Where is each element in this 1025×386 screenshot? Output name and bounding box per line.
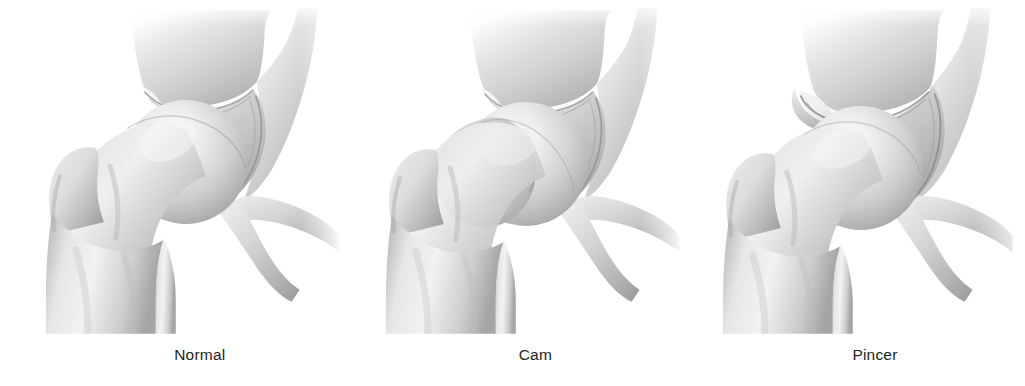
hip-illustration-normal [0,0,342,334]
hip-illustration-pincer [683,0,1025,334]
hip-illustration-cam [342,0,684,334]
panel-label-pincer: Pincer [704,345,1025,364]
panel-pincer: Pincer [683,0,1025,386]
femur-group [386,102,588,334]
panel-label-normal: Normal [29,345,371,364]
panel-normal: Normal [0,0,342,386]
panel-label-cam: Cam [365,345,707,364]
femur-group [723,106,923,334]
femur-group [46,100,248,334]
panel-cam: Cam [342,0,684,386]
hip-morphology-figure: Normal [0,0,1025,386]
panel-row: Normal [0,0,1025,386]
